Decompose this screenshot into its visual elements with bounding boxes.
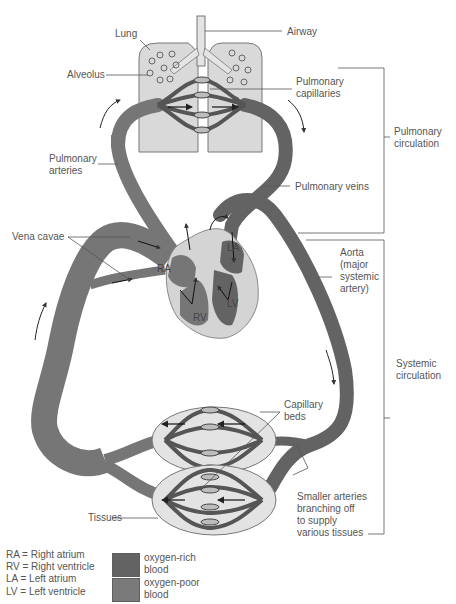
swatch-oxygen-rich — [112, 553, 140, 577]
legend-oxygen-poor: oxygen-poor blood — [112, 578, 212, 604]
label-capillary-beds: Capillary beds — [284, 399, 323, 423]
legend-abbreviations: RA = Right atrium RV = Right ventricle L… — [6, 549, 94, 598]
label-airway: Airway — [287, 26, 317, 38]
swatch-oxygen-poor — [112, 578, 140, 602]
label-lv: LV — [227, 298, 239, 309]
label-vena-cavae: Vena cavae — [12, 231, 64, 243]
tissue-lower — [152, 465, 276, 535]
label-smaller-arteries: Smaller arteries branching off to supply… — [297, 491, 367, 539]
heart — [166, 229, 258, 339]
label-tissues: Tissues — [88, 512, 122, 524]
label-alveolus: Alveolus — [67, 69, 105, 81]
label-rv: RV — [193, 312, 207, 323]
label-pulmonary-veins: Pulmonary veins — [295, 181, 369, 193]
label-pulmonary-capillaries: Pulmonary capillaries — [296, 76, 344, 100]
airway-tube — [197, 16, 205, 66]
label-pulmonary-circulation: Pulmonary circulation — [394, 126, 442, 150]
legend-oxygen-rich: oxygen-rich blood — [112, 553, 212, 579]
tissue-upper — [152, 407, 276, 473]
inferior-vena-cava — [90, 270, 165, 285]
label-la: LA — [227, 242, 239, 253]
label-pulmonary-arteries: Pulmonary arteries — [49, 153, 97, 177]
label-aorta: Aorta (major systemic artery) — [340, 247, 379, 295]
label-ra: RA — [157, 263, 171, 274]
label-systemic-circulation: Systemic circulation — [396, 358, 441, 382]
label-lung: Lung — [115, 28, 137, 40]
